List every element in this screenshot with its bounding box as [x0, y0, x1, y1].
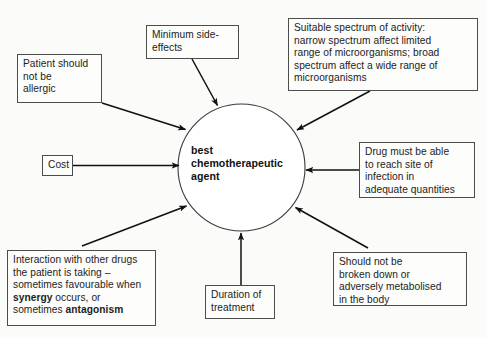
node-duration[interactable]: Duration of treatment — [205, 285, 275, 319]
interaction-term-antagonism: antagonism — [66, 304, 124, 315]
node-suitable-spectrum[interactable]: Suitable spectrum of activity: narrow sp… — [288, 18, 478, 91]
arrow-minimum-side-effects — [192, 59, 218, 106]
hub-label: best chemotherapeutic agent — [191, 144, 303, 182]
node-patient-allergic[interactable]: Patient should not be allergic — [17, 54, 102, 103]
arrow-interaction — [82, 206, 187, 246]
node-reach-site[interactable]: Drug must be able to reach site of infec… — [359, 142, 475, 198]
interaction-term-synergy: synergy — [13, 292, 52, 303]
node-metabolised[interactable]: Should not be broken down or adversely m… — [333, 252, 467, 306]
arrow-suitable-spectrum — [297, 91, 370, 130]
arrow-patient-allergic — [102, 103, 186, 130]
node-cost[interactable]: Cost — [42, 155, 73, 176]
node-minimum-side-effects[interactable]: Minimum side- effects — [146, 25, 239, 59]
interaction-text-1: Interaction with other drugs the patient… — [13, 254, 141, 290]
arrow-metabolised — [296, 208, 369, 249]
diagram-canvas: best chemotherapeutic agent Patient shou… — [0, 0, 486, 338]
node-interaction[interactable]: Interaction with other drugs the patient… — [7, 250, 156, 326]
